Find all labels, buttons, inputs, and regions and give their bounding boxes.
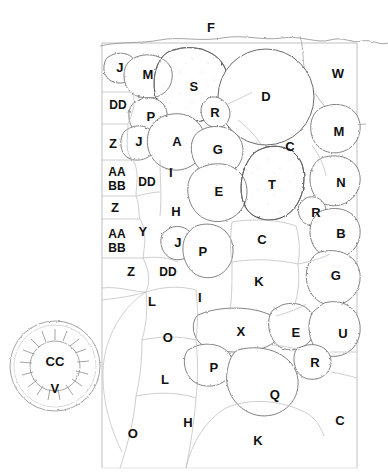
plant-key-label: X: [237, 325, 246, 338]
plant-key-label: Z: [109, 137, 117, 150]
plant-key-label: J: [116, 61, 123, 74]
plant-key-label: H: [183, 416, 193, 429]
plant-key-label: A: [172, 135, 182, 148]
plant-key-label: O: [128, 427, 138, 440]
plant-key-label: O: [163, 331, 173, 344]
plant-key-label: N: [336, 176, 346, 189]
plant-key-label: C: [285, 140, 295, 153]
plan-labels: FJMSDWDDPRMZJAGCAABBDDIETNZHRAABBYJPCBZD…: [0, 0, 388, 473]
plant-key-label: D: [261, 90, 271, 103]
plant-key-label: G: [331, 269, 341, 282]
plant-key-label: H: [171, 205, 181, 218]
plant-key-label: I: [169, 166, 173, 179]
plant-key-label: DD: [109, 99, 127, 111]
plant-key-label: R: [210, 106, 220, 119]
plant-key-label: Y: [139, 225, 148, 238]
plant-key-label: K: [254, 275, 264, 288]
plant-key-label: I: [198, 291, 202, 304]
plant-key-label: DD: [159, 266, 177, 278]
plant-key-label: V: [51, 382, 60, 395]
plant-key-label: DD: [138, 176, 156, 188]
plant-key-label: B: [336, 227, 346, 240]
plant-key-label: S: [190, 80, 199, 93]
plant-key-label: R: [311, 206, 321, 219]
plant-key-label: C: [257, 233, 267, 246]
plant-key-label: C: [335, 414, 345, 427]
plant-key-label: E: [215, 185, 224, 198]
plant-key-label: AA: [108, 228, 126, 240]
plant-key-label: L: [161, 373, 169, 386]
plant-key-label: BB: [108, 180, 126, 192]
plant-key-label: AA: [108, 166, 126, 178]
plant-key-label: CC: [45, 355, 64, 368]
plant-key-label: F: [207, 21, 215, 34]
plant-key-label: T: [268, 178, 276, 191]
plant-key-label: U: [338, 327, 348, 340]
plant-key-label: R: [310, 356, 320, 369]
plant-key-label: Z: [127, 265, 135, 278]
plant-key-label: W: [332, 67, 344, 80]
plant-key-label: K: [253, 434, 263, 447]
plant-key-label: M: [333, 125, 344, 138]
plant-key-label: J: [174, 236, 181, 249]
plant-key-label: G: [213, 143, 223, 156]
plant-key-label: P: [210, 361, 219, 374]
plant-key-label: Q: [270, 388, 280, 401]
plant-key-label: BB: [108, 242, 126, 254]
plant-key-label: P: [199, 245, 208, 258]
plant-key-label: E: [292, 326, 301, 339]
plant-key-label: P: [147, 110, 156, 123]
plant-key-label: M: [142, 68, 153, 81]
plant-key-label: J: [135, 135, 142, 148]
plant-key-label: Z: [111, 201, 119, 214]
plant-key-label: L: [148, 295, 156, 308]
